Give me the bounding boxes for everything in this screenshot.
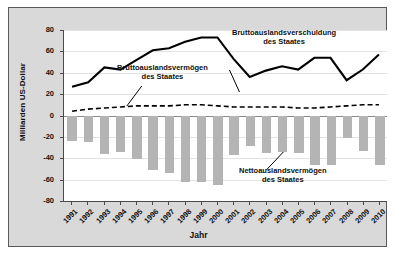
x-axis-tick (298, 201, 299, 205)
chart-panel: Milliarden US-Dollar 806040200-20-40-60-… (8, 7, 387, 247)
x-axis-tick (379, 201, 380, 205)
x-axis-tick (120, 201, 121, 205)
annotation-gross-asset-line1: Bruttoauslandsvermögen (117, 63, 208, 72)
plot-area (63, 30, 387, 201)
x-axis-tick (185, 201, 186, 205)
y-axis-tick-label: 60 (28, 47, 54, 55)
y-axis-tick-label: -60 (28, 176, 54, 184)
x-axis-tick (266, 201, 267, 205)
y-axis-tick-label: -80 (28, 197, 54, 205)
x-axis-tick (104, 201, 105, 205)
x-axis-tick (249, 201, 250, 205)
annotation-net-asset-line2: des Staates (239, 175, 327, 184)
y-axis-tick-label: 80 (28, 26, 54, 34)
annotation-net-asset-line1: Nettoauslandsvermögen (239, 166, 327, 175)
x-axis-tick (168, 201, 169, 205)
annotation-gross-asset: Bruttoauslandsvermögen des Staates (117, 63, 208, 81)
y-axis-tick-label: 40 (28, 69, 54, 77)
y-axis-tick-label: 0 (28, 112, 54, 120)
annotation-gross-debt-line2: des Staates (232, 37, 336, 46)
x-axis-tick (282, 201, 283, 205)
y-axis-tick-label: -40 (28, 154, 54, 162)
x-axis-tick (87, 201, 88, 205)
x-axis-tick (363, 201, 364, 205)
y-axis-tick-label: 20 (28, 90, 54, 98)
y-axis-tick-label: -20 (28, 133, 54, 141)
x-axis (63, 201, 387, 202)
x-axis-title: Jahr (9, 230, 388, 240)
x-axis-tick (314, 201, 315, 205)
x-axis-tick (330, 201, 331, 205)
annotation-gross-debt: Bruttoauslandsverschuldung des Staates (232, 28, 336, 46)
x-axis-tick (136, 201, 137, 205)
x-axis-tick (71, 201, 72, 205)
annotation-leaders (64, 30, 387, 201)
x-axis-tick (217, 201, 218, 205)
x-axis-tick (347, 201, 348, 205)
x-axis-tick (152, 201, 153, 205)
x-axis-tick (233, 201, 234, 205)
x-axis-tick (201, 201, 202, 205)
annotation-net-asset: Nettoauslandsvermögen des Staates (239, 166, 327, 184)
annotation-gross-debt-line1: Bruttoauslandsverschuldung (232, 28, 336, 37)
annotation-gross-asset-line2: des Staates (117, 72, 208, 81)
